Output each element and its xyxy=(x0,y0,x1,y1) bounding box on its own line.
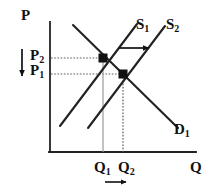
supply-curve-label-s1: S1 xyxy=(136,17,149,32)
price-label-p1: P1 xyxy=(30,63,44,78)
supply-demand-figure: P P2 P1 S1 S2 D1 Q1 Q2 Q xyxy=(0,0,210,196)
equilibrium-point-e2 xyxy=(119,70,128,79)
supply-curve-label-s2: S2 xyxy=(166,17,179,32)
price-guide-lines xyxy=(51,58,124,74)
quantity-label-q1: Q1 xyxy=(94,160,111,175)
x-axis-label: Q xyxy=(190,160,202,175)
demand-curve-label-d1: D1 xyxy=(174,122,190,137)
quantity-label-q2: Q2 xyxy=(118,160,135,175)
y-axis-label: P xyxy=(21,8,30,23)
price-label-p2: P2 xyxy=(30,48,44,63)
equilibrium-point-e1 xyxy=(99,54,108,63)
